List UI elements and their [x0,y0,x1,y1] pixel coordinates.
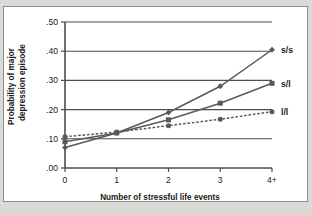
series-line-ss [65,50,272,148]
x-tick-label: 2 [166,175,171,185]
y-axis-title: Probability of major depression episode [7,44,27,125]
x-axis-title: Number of stressful life events [100,193,220,202]
y-axis-title-line2: depression episode [18,44,27,121]
data-point [270,81,275,86]
x-tick-labels: 01234+ [63,175,277,185]
x-tick-label: 4+ [267,175,277,185]
x-tick-label: 0 [63,175,68,185]
y-tick-label: .10 [46,134,58,144]
line-chart: Probability of major depression episode … [0,0,312,215]
series-label-ll: l/l [281,107,288,117]
data-point [114,130,119,135]
data-point [62,145,68,151]
data-point [63,134,68,139]
data-point [63,139,68,144]
x-tick-label: 1 [114,175,119,185]
data-point [270,109,275,114]
y-tick-label: .40 [46,46,58,56]
y-tick-label: .50 [46,17,58,27]
data-point [218,117,223,122]
y-tick-label: .30 [46,75,58,85]
data-point [166,110,172,116]
series-label-sl: s/l [281,79,291,89]
y-tick-label: .20 [46,105,58,115]
figure: Probability of major depression episode … [0,0,312,215]
data-series-group [62,47,275,151]
data-point [218,101,223,106]
chart-container: Probability of major depression episode … [0,0,312,215]
data-point [166,117,171,122]
series-label-ss: s/s [281,45,293,55]
x-tick-label: 3 [218,175,223,185]
legend: s/ss/ll/l [281,45,293,117]
y-tick-labels: .00.10.20.30.40.50 [46,17,58,173]
data-point [166,123,171,128]
y-tick-label: .00 [46,163,58,173]
y-axis-title-line1: Probability of major [7,47,16,125]
